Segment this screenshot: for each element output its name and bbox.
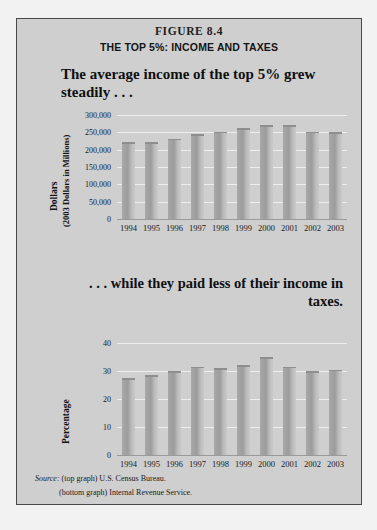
x-axis-tick-label: 2002	[301, 223, 324, 233]
bar	[306, 371, 319, 455]
x-axis-tick-label: 2003	[324, 459, 347, 469]
bar	[191, 367, 204, 455]
gridline	[117, 115, 347, 116]
x-axis-line	[117, 455, 347, 456]
bar	[260, 125, 273, 219]
x-axis-tick-label: 1995	[140, 459, 163, 469]
y-axis-tick-label: 100,000	[59, 180, 111, 189]
bottom-chart-headline: . . . while they paid less of their inco…	[77, 275, 343, 310]
x-axis-tick-label: 1996	[163, 459, 186, 469]
y-axis-tick-label: 20	[59, 395, 111, 404]
bar	[237, 128, 250, 219]
x-axis-tick-label: 2003	[324, 223, 347, 233]
y-axis-tick-label: 0	[59, 215, 111, 224]
y-axis-tick-label: 0	[59, 451, 111, 460]
y-axis-tick-label: 10	[59, 423, 111, 432]
figure-number: FIGURE 8.4	[17, 25, 361, 37]
bar	[122, 142, 135, 219]
bar	[237, 365, 250, 455]
bar	[260, 357, 273, 455]
gridline	[117, 343, 347, 344]
bar	[191, 134, 204, 219]
y-axis-tick-label: 250,000	[59, 128, 111, 137]
y-axis-tick-label: 50,000	[59, 197, 111, 206]
bar	[329, 132, 342, 219]
x-axis-tick-label: 1998	[209, 223, 232, 233]
bar	[122, 378, 135, 455]
x-axis-tick-label: 1997	[186, 223, 209, 233]
x-axis-tick-label: 2000	[255, 459, 278, 469]
x-axis-tick-label: 1996	[163, 223, 186, 233]
x-axis-tick-label: 2001	[278, 459, 301, 469]
bar	[168, 371, 181, 455]
top-chart-ylabel-line1: Dollars	[49, 181, 59, 211]
x-axis-tick-label: 2000	[255, 223, 278, 233]
bar	[306, 132, 319, 219]
bar	[145, 375, 158, 455]
source-bottom: (bottom graph) Internal Revenue Service.	[59, 488, 192, 497]
bar	[329, 370, 342, 455]
x-axis-tick-label: 1995	[140, 223, 163, 233]
x-axis-tick-label: 1999	[232, 459, 255, 469]
source-top: Source: (top graph) U.S. Census Bureau.	[35, 474, 166, 483]
bar	[168, 139, 181, 219]
bottom-bar-chart: Percentage 01020304019941995199619971998…	[17, 319, 362, 464]
x-axis-tick-label: 1999	[232, 223, 255, 233]
source-bottom-text: (bottom graph) Internal Revenue Service.	[59, 488, 192, 497]
source-label: Source:	[35, 474, 60, 483]
x-axis-tick-label: 1997	[186, 459, 209, 469]
x-axis-tick-label: 1998	[209, 459, 232, 469]
bar	[214, 368, 227, 455]
y-axis-tick-label: 300,000	[59, 111, 111, 120]
bar	[214, 132, 227, 219]
x-axis-tick-label: 1994	[117, 459, 140, 469]
figure-panel: FIGURE 8.4 THE TOP 5%: INCOME AND TAXES …	[16, 18, 362, 505]
bar	[283, 367, 296, 455]
top-chart-headline: The average income of the top 5% grew st…	[61, 65, 326, 102]
figure-title: THE TOP 5%: INCOME AND TAXES	[17, 41, 361, 53]
y-axis-tick-label: 30	[59, 367, 111, 376]
top-bar-chart: Dollars (2003 Dollars in Millions) 050,0…	[17, 105, 362, 237]
x-axis-tick-label: 1994	[117, 223, 140, 233]
x-axis-tick-label: 2001	[278, 223, 301, 233]
source-top-text: (top graph) U.S. Census Bureau.	[62, 474, 166, 483]
bar	[145, 142, 158, 219]
y-axis-tick-label: 200,000	[59, 145, 111, 154]
y-axis-tick-label: 150,000	[59, 163, 111, 172]
x-axis-tick-label: 2002	[301, 459, 324, 469]
y-axis-tick-label: 40	[59, 339, 111, 348]
x-axis-line	[117, 219, 347, 220]
bar	[283, 125, 296, 219]
